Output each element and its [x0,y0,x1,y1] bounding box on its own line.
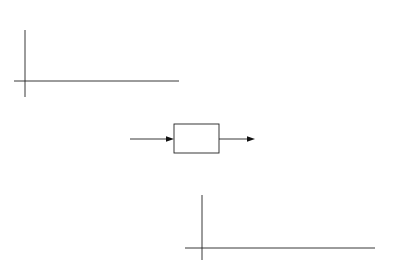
output-signal-plot [185,195,375,260]
lti-system-diagram [0,0,400,274]
input-arrow-head-icon [166,136,174,141]
system-block-diagram [130,124,255,153]
system-block [174,124,219,153]
output-arrow-head-icon [247,136,255,141]
input-signal-plot [14,30,179,97]
